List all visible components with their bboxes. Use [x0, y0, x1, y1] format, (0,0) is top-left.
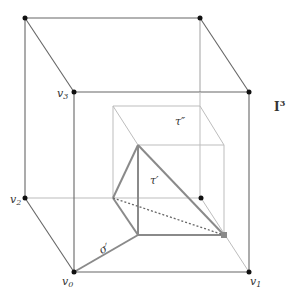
simplex-edges	[74, 145, 224, 272]
vertex-dot-v3	[72, 90, 77, 95]
inner-connector-top-right	[200, 106, 224, 145]
vertex-dot-v0	[72, 270, 77, 275]
simplex-edge-backleft-front	[113, 198, 138, 235]
outer-connector-bottom-left	[25, 198, 74, 272]
inner-connector-top-left	[113, 106, 138, 145]
label-v0: v0	[62, 275, 73, 289]
inner-vertex-node	[221, 232, 227, 238]
vertex-dot-back-top-right	[198, 16, 203, 21]
vertex-dot-v2	[23, 196, 28, 201]
simplex-edge-diagonal	[138, 145, 224, 235]
label-v2: v2	[10, 193, 21, 207]
outer-connector-top-right	[200, 18, 249, 92]
label-v3: v3	[57, 87, 68, 101]
label-v1: v1	[250, 275, 261, 289]
simplex-edge-top-backleft	[113, 145, 138, 198]
label-I3: I3	[274, 98, 286, 114]
vertex-dot-back-top-left	[23, 16, 28, 21]
label-sigma-prime: σ′	[97, 241, 112, 257]
vertex-dot-inner-back	[199, 196, 204, 201]
label-tau-double-prime: τ″	[175, 115, 186, 128]
outer-connector-top-left	[25, 18, 74, 92]
vertex-dot-front-top-right	[247, 90, 252, 95]
cube-diagram: v3 v2 v0 v1 I3 τ″ τ′ σ′	[0, 0, 296, 297]
label-tau-prime: τ′	[150, 174, 159, 187]
vertex-dot-v1	[247, 270, 252, 275]
